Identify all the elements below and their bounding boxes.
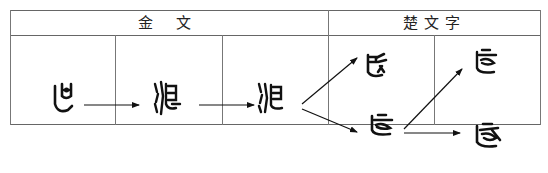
arrow-g3-g5 [302, 109, 357, 132]
evolution-arrows [84, 58, 462, 133]
glyph-g7 [477, 124, 500, 147]
glyph-evolution-diagram [0, 0, 548, 173]
arrow-g5-g6 [404, 69, 462, 129]
glyph-g2 [155, 82, 180, 114]
glyph-g3 [259, 84, 282, 112]
glyph-g5 [372, 115, 392, 135]
glyph-g1 [55, 84, 72, 111]
glyph-g6 [477, 50, 496, 73]
glyph-g4 [368, 54, 386, 76]
arrow-g3-g4 [302, 58, 357, 104]
